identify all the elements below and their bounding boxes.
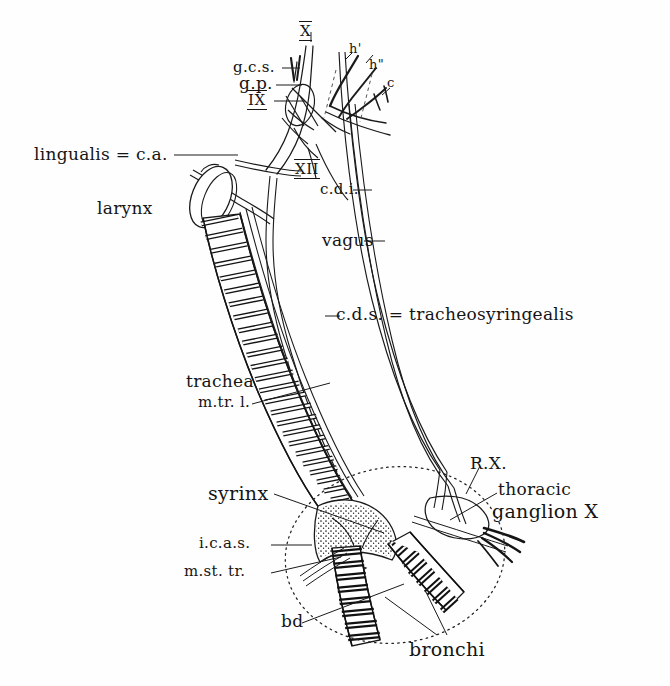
anatomical-figure: X g.c.s. g.p. IX h' h" c lingualis = c.a… bbox=[0, 0, 670, 686]
label-m-tr-l: m.tr. l. bbox=[198, 395, 250, 410]
label-i-c-a-s: i.c.a.s. bbox=[199, 536, 250, 551]
label-lingualis: lingualis = c.a. bbox=[34, 146, 168, 163]
label-h-double-prime: h" bbox=[369, 58, 384, 71]
bronchus-right bbox=[386, 528, 464, 611]
label-nerve-xii: XII bbox=[294, 162, 320, 178]
label-ganglion-x: ganglion X bbox=[492, 502, 598, 521]
label-c-d-i: c.d.i. bbox=[320, 182, 359, 197]
label-c-branch: c bbox=[387, 76, 395, 89]
vagus-secondary-trunk bbox=[349, 104, 454, 488]
ganglion-plexus-upper bbox=[281, 81, 336, 158]
label-r-x: R.X. bbox=[470, 455, 507, 472]
label-trachea: trachea bbox=[186, 373, 254, 390]
label-syrinx: syrinx bbox=[208, 484, 268, 503]
label-bd: bd bbox=[281, 613, 303, 630]
label-bronchi: bronchi bbox=[409, 640, 485, 659]
label-h-prime: h' bbox=[349, 42, 362, 55]
vagus-main-trunk bbox=[339, 52, 447, 472]
label-c-d-s: c.d.s. = tracheosyringealis bbox=[336, 306, 574, 323]
trachea-tube bbox=[201, 214, 371, 512]
label-thoracic: thoracic bbox=[498, 481, 571, 498]
label-larynx: larynx bbox=[97, 200, 153, 217]
diagram-canvas bbox=[0, 0, 670, 686]
label-m-st-tr: m.st. tr. bbox=[184, 564, 245, 579]
label-nerve-x-top: X bbox=[299, 24, 312, 40]
label-nerve-ix: IX bbox=[247, 93, 267, 109]
label-vagus: vagus bbox=[322, 232, 374, 249]
